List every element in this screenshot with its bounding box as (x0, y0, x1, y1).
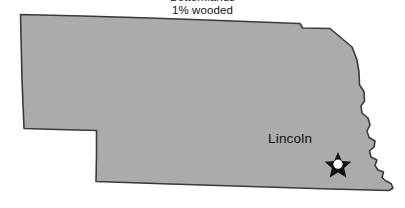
city-label-lincoln: Lincoln (268, 131, 312, 146)
capital-star-icon (324, 151, 352, 179)
state-map-figure: Bottomlands 1% wooded Lincoln (0, 0, 405, 208)
